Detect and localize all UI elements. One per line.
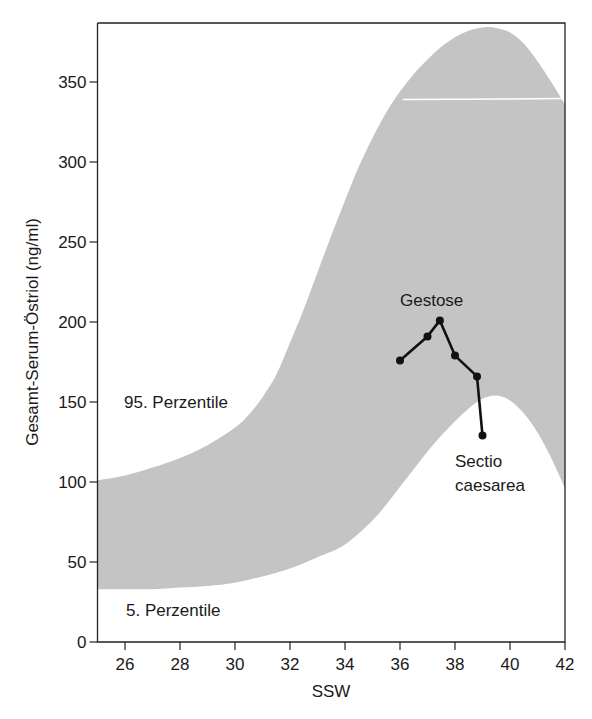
label-gestose: Gestose — [400, 291, 463, 310]
x-tick-label: 36 — [391, 655, 410, 674]
x-tick-label: 42 — [556, 655, 575, 674]
y-tick-label: 50 — [68, 553, 87, 572]
data-point — [479, 432, 487, 440]
data-point — [451, 352, 459, 360]
x-tick-label: 30 — [226, 655, 245, 674]
x-tick-label: 34 — [336, 655, 355, 674]
data-point — [424, 332, 432, 340]
data-point — [436, 316, 444, 324]
y-tick-label: 200 — [58, 313, 86, 332]
label-sectio: Sectio — [455, 452, 502, 471]
x-tick-label: 32 — [281, 655, 300, 674]
estriol-chart: 050100150200250300350262830323436384042 … — [0, 0, 592, 719]
label-5-perzentile: 5. Perzentile — [126, 601, 221, 620]
y-axis-title: Gesamt-Serum-Östriol (ng/ml) — [23, 218, 42, 446]
y-tick-label: 100 — [58, 473, 86, 492]
x-tick-label: 26 — [116, 655, 135, 674]
x-axis-title: SSW — [312, 682, 351, 701]
label-caesarea: caesarea — [455, 476, 525, 495]
y-tick-label: 300 — [58, 153, 86, 172]
y-tick-label: 0 — [77, 633, 86, 652]
x-tick-label: 28 — [171, 655, 190, 674]
x-tick-label: 40 — [501, 655, 520, 674]
percentile-band — [98, 27, 566, 589]
y-tick-label: 350 — [58, 73, 86, 92]
data-point — [396, 356, 404, 364]
y-tick-label: 150 — [58, 393, 86, 412]
y-tick-label: 250 — [58, 233, 86, 252]
reference-line — [403, 99, 563, 100]
label-95-perzentile: 95. Perzentile — [124, 393, 228, 412]
x-tick-label: 38 — [446, 655, 465, 674]
data-point — [473, 372, 481, 380]
